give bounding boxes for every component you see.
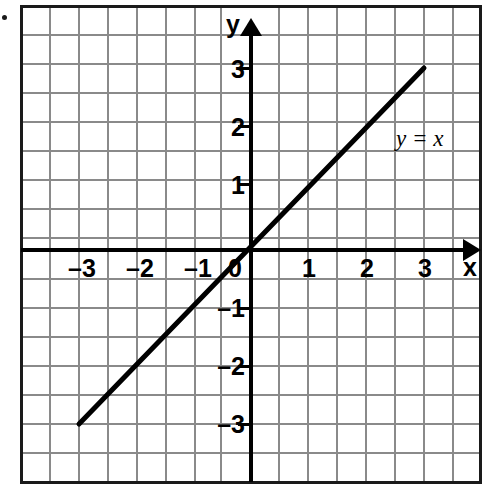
x-tick-label-2: 2 bbox=[352, 256, 382, 281]
y-tick-label-neg1: –1 bbox=[210, 296, 245, 321]
equation-annotation: y = x bbox=[396, 127, 443, 150]
y-tick-label-2: 2 bbox=[219, 115, 245, 140]
x-axis-label: x bbox=[463, 255, 477, 280]
origin-label: 0 bbox=[228, 256, 242, 281]
graph-figure: y x 3 2 1 0 –1 –2 –3 –3 –2 –1 1 2 3 y = … bbox=[0, 0, 485, 489]
x-tick-label-neg3: –3 bbox=[62, 256, 102, 281]
x-tick-label-neg2: –2 bbox=[120, 256, 160, 281]
y-tick-label-neg3: –3 bbox=[210, 412, 245, 437]
y-tick-label-3: 3 bbox=[219, 57, 245, 82]
y-axis-label: y bbox=[226, 12, 240, 37]
y-tick-label-1: 1 bbox=[219, 173, 245, 198]
x-tick-label-1: 1 bbox=[294, 256, 324, 281]
x-tick-label-neg1: –1 bbox=[178, 256, 218, 281]
x-tick-label-3: 3 bbox=[410, 256, 440, 281]
y-tick-label-neg2: –2 bbox=[210, 354, 245, 379]
